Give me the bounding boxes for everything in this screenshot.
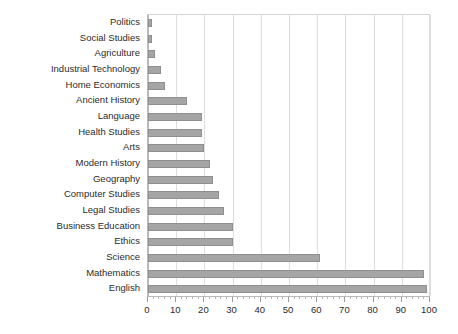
bar[interactable] xyxy=(148,207,224,215)
x-minor-tick xyxy=(333,297,334,299)
bar[interactable] xyxy=(148,144,204,152)
y-axis-label: Legal Studies xyxy=(82,205,140,215)
x-minor-tick xyxy=(271,297,272,299)
x-tick-30 xyxy=(232,297,233,302)
y-axis-label: Social Studies xyxy=(80,33,140,43)
bar[interactable] xyxy=(148,191,219,199)
x-minor-tick xyxy=(265,297,266,299)
bar[interactable] xyxy=(148,223,233,231)
bar-row[interactable] xyxy=(148,97,429,105)
gridline-100 xyxy=(430,15,431,296)
bar-row[interactable] xyxy=(148,270,429,278)
x-tick-80 xyxy=(373,297,374,302)
x-minor-tick xyxy=(254,297,255,299)
x-minor-tick xyxy=(367,297,368,299)
x-tick-label-30: 30 xyxy=(226,304,237,316)
bar-row[interactable] xyxy=(148,144,429,152)
x-minor-tick xyxy=(327,297,328,299)
bar[interactable] xyxy=(148,113,202,121)
x-minor-tick xyxy=(299,297,300,299)
x-tick-60 xyxy=(316,297,317,302)
x-axis xyxy=(147,296,430,303)
bar[interactable] xyxy=(148,238,233,246)
x-tick-40 xyxy=(260,297,261,302)
bar-row[interactable] xyxy=(148,66,429,74)
bar-row[interactable] xyxy=(148,238,429,246)
bar-row[interactable] xyxy=(148,191,429,199)
x-minor-tick xyxy=(356,297,357,299)
x-tick-label-50: 50 xyxy=(283,304,294,316)
x-minor-tick xyxy=(181,297,182,299)
x-tick-100 xyxy=(429,297,430,302)
y-axis-label: Home Economics xyxy=(66,80,140,90)
x-tick-90 xyxy=(401,297,402,302)
x-tick-label-70: 70 xyxy=(339,304,350,316)
bar-row[interactable] xyxy=(148,223,429,231)
bar-row[interactable] xyxy=(148,129,429,137)
bar[interactable] xyxy=(148,285,427,293)
y-axis-label: Health Studies xyxy=(78,127,140,137)
y-axis-label: Geography xyxy=(93,174,140,184)
x-minor-tick xyxy=(192,297,193,299)
x-minor-tick xyxy=(384,297,385,299)
bar-chart: PoliticsSocial StudiesAgricultureIndustr… xyxy=(0,0,458,334)
x-tick-label-100: 100 xyxy=(421,304,437,316)
x-minor-tick xyxy=(153,297,154,299)
x-minor-tick xyxy=(378,297,379,299)
bar-series xyxy=(148,15,429,296)
bar-row[interactable] xyxy=(148,50,429,58)
bar-row[interactable] xyxy=(148,113,429,121)
x-minor-tick xyxy=(339,297,340,299)
x-minor-tick xyxy=(395,297,396,299)
x-minor-tick xyxy=(215,297,216,299)
x-tick-label-0: 0 xyxy=(144,304,149,316)
bar[interactable] xyxy=(148,254,320,262)
y-axis-label: Business Education xyxy=(57,221,140,231)
bar-row[interactable] xyxy=(148,82,429,90)
x-minor-tick xyxy=(418,297,419,299)
x-minor-tick xyxy=(237,297,238,299)
x-tick-label-60: 60 xyxy=(311,304,322,316)
y-axis-label: Arts xyxy=(123,142,140,152)
x-minor-tick xyxy=(423,297,424,299)
x-minor-tick xyxy=(170,297,171,299)
bar[interactable] xyxy=(148,82,165,90)
y-axis-label: Modern History xyxy=(76,158,140,168)
x-tick-label-80: 80 xyxy=(367,304,378,316)
bar[interactable] xyxy=(148,66,161,74)
bar-row[interactable] xyxy=(148,35,429,43)
x-minor-tick xyxy=(305,297,306,299)
bar-row[interactable] xyxy=(148,19,429,27)
x-minor-tick xyxy=(226,297,227,299)
x-minor-tick xyxy=(322,297,323,299)
bar[interactable] xyxy=(148,35,152,43)
x-minor-tick xyxy=(350,297,351,299)
x-minor-tick xyxy=(164,297,165,299)
y-axis-label: Industrial Technology xyxy=(51,64,140,74)
x-minor-tick xyxy=(209,297,210,299)
x-tick-label-90: 90 xyxy=(396,304,407,316)
bar-row[interactable] xyxy=(148,207,429,215)
bar[interactable] xyxy=(148,176,213,184)
bar-row[interactable] xyxy=(148,254,429,262)
x-tick-50 xyxy=(288,297,289,302)
x-minor-tick xyxy=(361,297,362,299)
x-minor-tick xyxy=(277,297,278,299)
bar-row[interactable] xyxy=(148,176,429,184)
bar[interactable] xyxy=(148,97,187,105)
x-tick-label-10: 10 xyxy=(170,304,181,316)
bar-row[interactable] xyxy=(148,285,429,293)
bar-row[interactable] xyxy=(148,160,429,168)
bar[interactable] xyxy=(148,160,210,168)
x-minor-tick xyxy=(249,297,250,299)
x-minor-tick xyxy=(282,297,283,299)
bar[interactable] xyxy=(148,19,152,27)
x-tick-70 xyxy=(344,297,345,302)
y-axis-label: Politics xyxy=(110,17,140,27)
bar[interactable] xyxy=(148,270,424,278)
bar[interactable] xyxy=(148,50,155,58)
bar[interactable] xyxy=(148,129,202,137)
x-minor-tick xyxy=(311,297,312,299)
y-axis-label: Language xyxy=(98,111,140,121)
y-axis-label: English xyxy=(109,283,140,293)
